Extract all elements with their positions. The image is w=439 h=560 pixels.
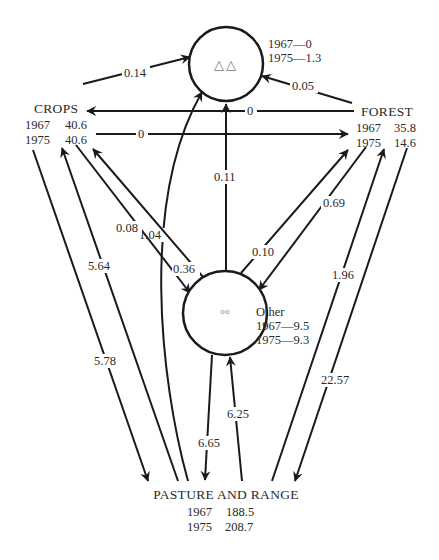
land-use-flow-diagram: 0.14 0.05 0 0 1.04 0.11 0.08 0.3 [0, 0, 439, 560]
crops-1975-value: 40.6 [65, 133, 87, 147]
edge-label: 5.64 [88, 259, 111, 273]
edge-crops-to-top: 0.14 [83, 57, 190, 84]
forest-1967-value: 35.8 [394, 121, 416, 135]
edge-label: 0.05 [292, 79, 314, 93]
forest-1975-value: 14.6 [394, 136, 416, 150]
edge-label: 0.10 [252, 245, 274, 259]
node-crops: CROPS 1967 40.6 1975 40.6 [25, 101, 87, 147]
edge-other-to-top: 0.11 [212, 104, 240, 271]
forest-1975-label: 1975 [356, 136, 381, 150]
pasture-1975-label: 1975 [187, 520, 212, 534]
node-crops-name: CROPS [34, 101, 78, 116]
edge-label: 6.25 [227, 407, 249, 421]
edge-crops-to-pasture: 5.78 [33, 150, 148, 481]
crops-1967-label: 1967 [25, 118, 50, 132]
edge-forest-to-crops: 0 [87, 104, 354, 118]
node-other: °° Other 1967—9.5 1975—9.3 [183, 271, 309, 355]
node-other-line1: 1967—9.5 [256, 319, 309, 333]
edge-label: 6.65 [198, 436, 220, 450]
node-top-line2: 1975—1.3 [268, 51, 321, 65]
edge-label: 0.69 [323, 196, 345, 210]
edge-label: 5.78 [94, 354, 116, 368]
crops-1975-label: 1975 [25, 133, 50, 147]
edge-label: 0.11 [214, 170, 235, 184]
node-other-line2: 1975—9.3 [256, 333, 309, 347]
edge-label: 0 [138, 127, 144, 141]
edge-forest-to-pasture: 22.57 [295, 148, 407, 481]
edge-label: 22.57 [321, 373, 349, 387]
edge-label: 0 [247, 104, 253, 118]
node-pasture-name: PASTURE AND RANGE [153, 487, 299, 502]
edge-forest-to-top: 0.05 [262, 76, 352, 103]
triangle-symbol-icon: △△ [214, 57, 238, 72]
node-forest: FOREST 1967 35.8 1975 14.6 [356, 104, 416, 150]
edge-label: 0.14 [124, 66, 147, 80]
node-top-line1: 1967—0 [268, 37, 312, 51]
node-forest-name: FOREST [361, 104, 414, 119]
edge-label: 1.96 [332, 268, 354, 282]
edge-label: 0.08 [116, 221, 138, 235]
edge-pasture-to-other: 6.25 [225, 357, 253, 481]
crops-1967-value: 40.6 [65, 118, 87, 132]
pasture-1967-value: 188.5 [226, 505, 254, 519]
edge-other-to-pasture: 6.65 [196, 355, 224, 480]
pasture-1967-label: 1967 [187, 505, 212, 519]
edge-pasture-to-crops: 5.64 [62, 148, 178, 481]
edge-other-to-forest: 0.10 [241, 150, 348, 273]
edge-label: 0.36 [173, 262, 195, 276]
edge-other-to-crops: 0.36 [93, 149, 203, 277]
dots-symbol-icon: °° [220, 307, 230, 321]
pasture-1975-value: 208.7 [225, 520, 253, 534]
node-other-name: Other [256, 305, 285, 319]
edge-crops-to-forest: 0 [96, 127, 348, 141]
forest-1967-label: 1967 [356, 121, 381, 135]
node-pasture: PASTURE AND RANGE 1967 188.5 1975 208.7 [153, 487, 299, 534]
